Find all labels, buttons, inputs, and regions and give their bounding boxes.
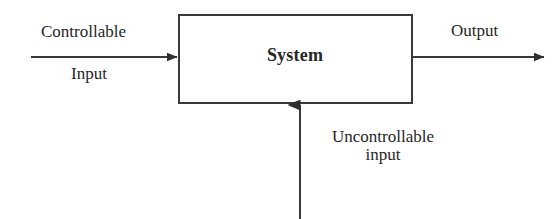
uncontrollable-input-label-line1: Uncontrollable <box>332 127 434 146</box>
controllable-input-label-line1: Controllable <box>41 23 126 41</box>
output-label: Output <box>451 22 498 40</box>
controllable-input-label-line2: Input <box>71 65 107 83</box>
uncontrollable-input-label: Uncontrollable input <box>325 128 441 164</box>
system-box-label: System <box>178 46 412 65</box>
uncontrollable-input-label-line2: input <box>325 146 441 164</box>
diagram-canvas: System Controllable Input Output Uncontr… <box>0 0 559 219</box>
